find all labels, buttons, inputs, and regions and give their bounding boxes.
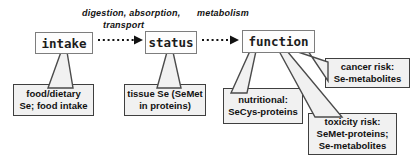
box-toxicity-line-3: Se-metabolites: [319, 140, 387, 152]
callout-tail-function-cancer: [295, 51, 328, 81]
arrowhead-intake-status-icon: [134, 36, 143, 45]
box-food-dietary-se: food/dietary Se; food intake: [13, 84, 94, 116]
box-cancer-line-1: cancer risk:: [341, 61, 394, 73]
label-metabolism: metabolism: [197, 8, 249, 18]
box-intake-label: intake: [41, 36, 86, 51]
box-tissue-line-2: in proteins): [139, 100, 191, 112]
box-status: status: [145, 31, 197, 54]
box-function: function: [242, 30, 315, 53]
box-toxicity-risk: toxicity risk: SeMet-proteins; Se-metabo…: [308, 113, 397, 155]
box-toxicity-line-2: SeMet-proteins;: [317, 128, 389, 140]
box-intake: intake: [35, 32, 93, 54]
box-food-line-1: food/dietary: [26, 88, 80, 100]
box-tissue-line-1: tissue Se (SeMet: [127, 88, 203, 100]
box-nutritional-line-1: nutritional:: [238, 94, 288, 106]
selenium-flow-diagram: digestion, absorption, transport metabol…: [0, 0, 414, 161]
callout-tail-status-tissue: [157, 52, 181, 88]
arrowhead-status-function-icon: [230, 36, 239, 45]
box-food-line-2: Se; food intake: [19, 100, 87, 112]
label-transport: transport: [103, 20, 144, 30]
box-cancer-line-2: Se-metabolites: [334, 73, 402, 85]
label-digestion-absorption: digestion, absorption,: [82, 8, 180, 18]
callout-tail-function-nutritional: [231, 51, 256, 93]
callout-tail-intake-food: [48, 52, 73, 88]
box-function-label: function: [248, 34, 308, 49]
box-tissue-se: tissue Se (SeMet in proteins): [124, 84, 206, 116]
box-status-label: status: [148, 35, 193, 50]
box-toxicity-line-1: toxicity risk:: [325, 116, 381, 128]
box-nutritional: nutritional: SeCys-proteins: [223, 88, 303, 124]
box-nutritional-line-2: SeCys-proteins: [228, 106, 298, 118]
box-cancer-risk: cancer risk: Se-metabolites: [325, 58, 410, 88]
